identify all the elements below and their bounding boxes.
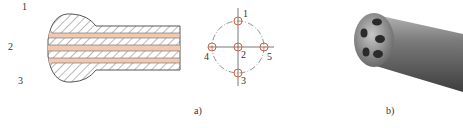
probe-cross-section: [20, 4, 190, 92]
hole-label-1: 1: [243, 9, 248, 19]
channel-label-1: 1: [22, 2, 27, 12]
hole-label-4: 4: [204, 52, 209, 62]
hole-label-2: 2: [241, 50, 246, 60]
caption-a: a): [194, 106, 202, 116]
hole-label-3: 3: [241, 76, 246, 86]
caption-b: b): [386, 106, 394, 116]
pressure-channels: [20, 4, 190, 92]
hole-label-5: 5: [267, 52, 272, 62]
channel-label-3: 3: [18, 76, 23, 86]
five-hole-probe-figure: 1 2 3 1 2 3 4 5 a) b): [0, 0, 463, 128]
probe-photo: [354, 13, 463, 92]
channel-label-2: 2: [8, 42, 13, 52]
